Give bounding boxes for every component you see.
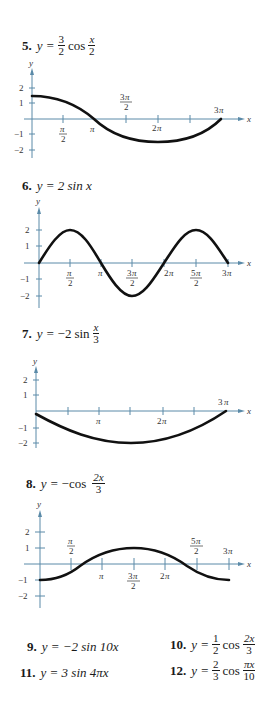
fraction: 2x3 — [243, 633, 255, 656]
svg-text:π: π — [196, 536, 201, 546]
problem-number: 10. — [170, 637, 186, 653]
problem-12-equation: 12. y = 23 cos πx10 — [170, 659, 258, 682]
svg-text:−1: −1 — [18, 575, 28, 585]
graph-problem-8: y x 2 1 −1 −2 π2 π 3π2 2π 5π2 3π — [0, 0, 278, 705]
svg-text:2: 2 — [160, 571, 165, 581]
problem-number: 11. — [20, 665, 36, 681]
svg-text:2: 2 — [194, 546, 199, 556]
svg-text:π: π — [165, 571, 170, 581]
svg-text:y: y — [36, 499, 41, 509]
problem-number: 12. — [170, 663, 186, 679]
svg-text:π: π — [68, 536, 73, 546]
problem-10-equation: 10. y = 12 cos 2x3 — [170, 633, 258, 656]
problem-11-equation: 11. y = 3 sin 4πx — [20, 665, 109, 681]
svg-text:−2: −2 — [18, 591, 28, 601]
svg-text:2: 2 — [131, 581, 136, 591]
svg-text:π: π — [133, 571, 138, 581]
fraction: πx10 — [243, 659, 255, 682]
svg-text:x: x — [246, 559, 251, 569]
svg-text:2: 2 — [25, 527, 30, 537]
problem-9-equation: 9. y = −2 sin 10x — [27, 639, 119, 655]
svg-text:π: π — [228, 546, 233, 556]
fraction: 23 — [212, 659, 220, 682]
fraction: 12 — [212, 633, 220, 656]
svg-text:2: 2 — [69, 546, 74, 556]
problem-number: 9. — [27, 639, 37, 655]
svg-text:π: π — [99, 571, 104, 581]
svg-text:1: 1 — [25, 543, 30, 553]
